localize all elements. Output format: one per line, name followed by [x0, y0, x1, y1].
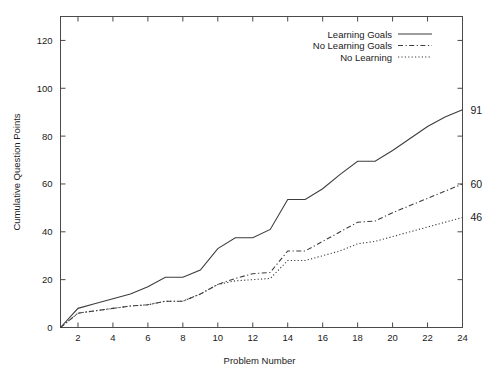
x-tick-label-6: 6: [145, 332, 150, 343]
x-tick-label-12: 12: [247, 332, 258, 343]
x-tick-label-18: 18: [352, 332, 363, 343]
y-axis-title: Cumulative Question Points: [11, 113, 22, 230]
x-tick-label-14: 14: [282, 332, 293, 343]
y-tick-label-0: 0: [47, 322, 52, 333]
y-tick-label-40: 40: [42, 226, 53, 237]
x-tick-label-2: 2: [75, 332, 80, 343]
series-line-no-learning-goals: [61, 184, 463, 328]
x-tick-label-24: 24: [457, 332, 468, 343]
y-tick-label-120: 120: [37, 35, 53, 46]
legend-label-no-learning-goals: No Learning Goals: [313, 40, 392, 51]
y-tick-label-60: 60: [42, 178, 53, 189]
series-line-learning-goals: [61, 110, 463, 328]
x-axis-title: Problem Number: [224, 355, 296, 366]
line-chart: 24681012141618202224020406080100120Cumul…: [0, 0, 500, 385]
legend-label-learning-goals: Learning Goals: [328, 29, 393, 40]
y-tick-label-80: 80: [42, 131, 53, 142]
y-tick-label-100: 100: [37, 83, 53, 94]
x-tick-label-22: 22: [422, 332, 433, 343]
end-label-learning-goals: 91: [471, 104, 483, 116]
x-tick-label-4: 4: [110, 332, 115, 343]
y-tick-label-20: 20: [42, 274, 53, 285]
chart-container: 24681012141618202224020406080100120Cumul…: [0, 0, 500, 385]
x-tick-label-10: 10: [213, 332, 224, 343]
plot-frame: [61, 17, 463, 328]
x-tick-label-16: 16: [317, 332, 328, 343]
x-tick-label-8: 8: [180, 332, 185, 343]
legend-label-no-learning: No Learning: [340, 52, 392, 63]
end-label-no-learning-goals: 60: [471, 178, 483, 190]
end-label-no-learning: 46: [471, 211, 483, 223]
x-tick-label-20: 20: [387, 332, 398, 343]
